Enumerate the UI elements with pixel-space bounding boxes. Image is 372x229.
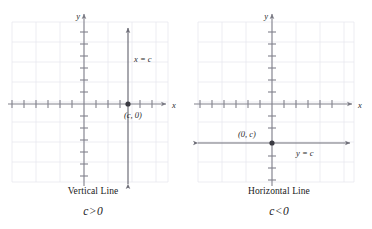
condition-operator: <	[274, 205, 283, 217]
caption-horizontal-line: Horizontal Line	[186, 186, 372, 196]
y-axis-label: y	[263, 11, 268, 21]
point-marker-c-0	[125, 101, 130, 106]
equation-label-y-equals-c: y = c	[295, 148, 314, 158]
panel-horizontal-line: y x y = c (0, c) Horizontal Line c<0	[186, 0, 372, 229]
grid-lines	[12, 22, 168, 182]
point-label-0-c: (0, c)	[238, 129, 256, 139]
caption-condition-c-greater-zero: c>0	[0, 205, 186, 217]
point-marker-0-c	[269, 140, 274, 145]
condition-operator: >	[88, 205, 97, 217]
caption-condition-c-less-zero: c<0	[186, 205, 372, 217]
caption-vertical-line: Vertical Line	[0, 186, 186, 196]
two-panel-line-figure: y x x = c (c, 0) Vertical Line c>0	[0, 0, 372, 229]
grid-lines	[198, 22, 354, 182]
vertical-line-plot: y x x = c (c, 0)	[0, 0, 186, 196]
condition-value: 0	[283, 205, 289, 217]
y-axis-label: y	[75, 11, 80, 21]
x-axis-label: x	[171, 100, 176, 110]
point-label-c-0: (c, 0)	[124, 110, 142, 120]
x-axis-label: x	[357, 100, 362, 110]
horizontal-line-plot: y x y = c (0, c)	[186, 0, 372, 196]
panel-vertical-line: y x x = c (c, 0) Vertical Line c>0	[0, 0, 186, 229]
condition-value: 0	[97, 205, 103, 217]
equation-label-x-equals-c: x = c	[133, 54, 152, 64]
